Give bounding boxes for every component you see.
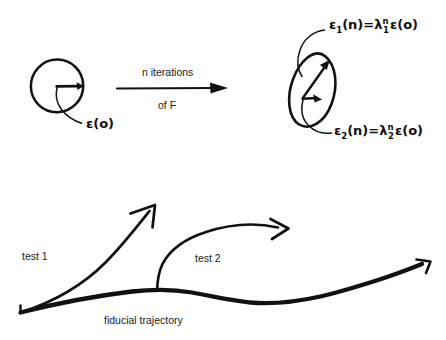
epsilon-2-arg: (n) — [347, 123, 368, 138]
epsilon-1-label: ε1(n)=λn1ε(o) — [329, 16, 418, 35]
iterations-label-bottom: of F — [158, 99, 176, 111]
major-axis-arrow-shaft — [303, 66, 326, 99]
iteration-arrow-shaft — [117, 88, 216, 89]
epsilon-2-lambda-subscript: 2 — [388, 131, 394, 141]
epsilon-initial-symbol: ε — [86, 116, 93, 131]
epsilon-2-label: ε2(n)=λn2ε(o) — [334, 122, 423, 141]
test-2-label: test 2 — [195, 252, 221, 264]
epsilon-1-arg: (n) — [342, 17, 363, 32]
test-2-arrowhead — [271, 219, 289, 239]
epsilon-1-lambda-subscript: 1 — [383, 25, 389, 35]
svg-text:ε2(n)=λn2ε(o): ε2(n)=λn2ε(o) — [334, 122, 423, 141]
lyapunov-exponent-figure: ε(o) n iterations of F — [0, 0, 446, 340]
epsilon-initial-label: ε(o) — [86, 116, 114, 131]
evolved-ball-ellipse — [289, 54, 335, 127]
initial-ball-leader-line — [56, 87, 81, 123]
initial-ball-group — [31, 60, 84, 124]
epsilon-1-rhs-epsilon: ε — [390, 17, 397, 32]
epsilon-2-leader-line — [302, 100, 332, 133]
epsilon-1-lambda: λ — [374, 17, 382, 32]
epsilon-2-symbol: ε — [334, 123, 341, 138]
epsilon-initial-arg: (o) — [93, 116, 114, 131]
test-1-arrowhead — [131, 205, 156, 228]
test-1-label: test 1 — [22, 250, 48, 262]
iteration-arrowhead — [210, 83, 228, 94]
fiducial-trajectory-label: fiducial trajectory — [104, 314, 184, 326]
evolved-ball-group — [289, 30, 335, 133]
epsilon-1-equals: = — [363, 17, 374, 32]
major-axis-arrowhead — [320, 60, 330, 70]
iteration-arrow-group — [117, 83, 228, 94]
epsilon-2-lambda: λ — [379, 123, 387, 138]
epsilon-1-symbol: ε — [329, 17, 336, 32]
iterations-label-top: n iterations — [142, 66, 193, 78]
epsilon-2-equals: = — [368, 123, 379, 138]
trajectory-panel: test 1 test 2 fiducial trajectory — [21, 205, 431, 326]
svg-text:ε1(n)=λn1ε(o): ε1(n)=λn1ε(o) — [329, 16, 418, 35]
svg-text:ε(o): ε(o) — [86, 116, 114, 131]
minor-axis-arrowhead — [313, 94, 322, 102]
epsilon-1-rhs-arg: (o) — [397, 17, 418, 32]
epsilon-2-rhs-arg: (o) — [402, 123, 423, 138]
epsilon-2-rhs-epsilon: ε — [395, 123, 402, 138]
fiducial-trajectory-curve — [21, 264, 423, 313]
